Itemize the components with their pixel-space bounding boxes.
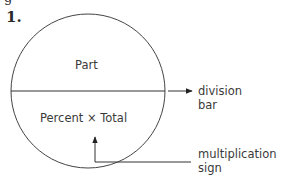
figure-number: 1. (6, 8, 22, 26)
percent-times-total: Percent × Total (40, 111, 127, 125)
multiplication-sign-callout: multiplication sign (198, 147, 276, 175)
division-bar-callout-line2: bar (198, 98, 242, 112)
top-text-fragment: g (4, 0, 12, 5)
multiplication-sign-callout-line1: multiplication (198, 147, 276, 161)
multiplication-sign-arrow (95, 137, 191, 162)
percent-label: Percent (40, 111, 83, 125)
multiplication-sign: × (87, 111, 97, 125)
part-label: Part (75, 58, 98, 72)
total-label: Total (100, 111, 127, 125)
multiplication-sign-callout-line2: sign (198, 161, 276, 175)
percent-diagram: g 1. Part Percent × Total division bar m… (0, 0, 282, 179)
division-bar-callout-line1: division (198, 84, 242, 98)
division-bar-callout: division bar (198, 84, 242, 112)
